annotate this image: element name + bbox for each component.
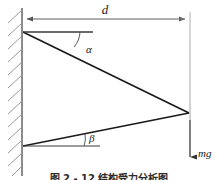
label-distance-d: d xyxy=(102,2,109,17)
figure-container: d α β mg 图 2 - 12 结构受力分析图 xyxy=(0,0,218,180)
label-angle-beta: β xyxy=(88,132,95,144)
lower-member-line xyxy=(23,113,189,146)
wall-hatching xyxy=(8,10,22,176)
label-weight-mg: mg xyxy=(198,147,212,159)
upper-member-line xyxy=(23,32,189,113)
members-group xyxy=(23,32,189,146)
angle-alpha-arc xyxy=(74,32,80,47)
angle-alpha-group: α xyxy=(74,32,92,55)
figure-caption: 图 2 - 12 结构受力分析图 xyxy=(50,172,169,180)
wall-group xyxy=(8,8,22,176)
label-angle-alpha: α xyxy=(86,43,92,55)
angle-beta-arc xyxy=(84,134,85,146)
weight-group: mg xyxy=(190,40,212,159)
force-diagram-svg: d α β mg 图 2 - 12 结构受力分析图 xyxy=(0,0,218,180)
dimension-d-group: d xyxy=(27,2,190,40)
